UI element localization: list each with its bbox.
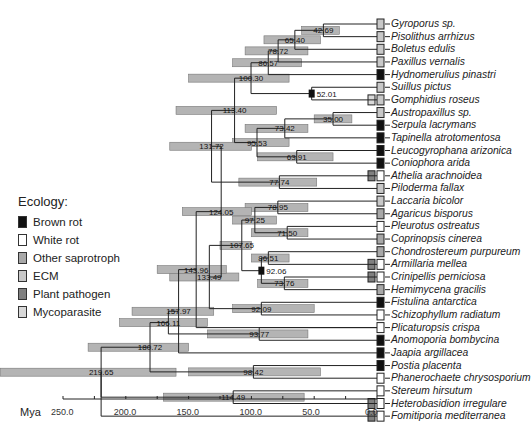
legend-swatch-icon	[18, 234, 27, 246]
axis-tick-label: 200.0	[114, 407, 137, 417]
ecology-marker-icon	[377, 95, 384, 105]
node-age-label: 86.51	[258, 254, 279, 263]
taxon-label: Anomoporia bombycina	[391, 334, 499, 346]
ecology-marker-icon	[377, 411, 384, 421]
taxon-label: Fomitiporia mediterranea	[391, 410, 505, 422]
ecology-marker-icon	[377, 32, 384, 42]
ecology-marker-icon	[377, 146, 384, 156]
taxon-label: Gomphidius roseus	[391, 94, 480, 106]
ecology-marker-icon	[377, 399, 384, 409]
ecology-marker-icon	[377, 133, 384, 143]
node-age-label: 157.97	[166, 307, 191, 316]
legend-item: White rot	[18, 231, 120, 249]
ecology-marker-icon	[377, 171, 384, 181]
taxon-label: Athelia arachnoidea	[391, 170, 482, 182]
ecology-marker-icon	[377, 373, 384, 383]
taxon-label: Schizophyllum radiatum	[391, 309, 500, 321]
ecology-marker-icon	[377, 82, 384, 92]
ecology-marker-icon	[377, 158, 384, 168]
legend-item: Brown rot	[18, 213, 120, 231]
node-age-label: 35.00	[323, 115, 344, 124]
node-age-label: 78.95	[268, 203, 289, 212]
node-age-label: 93.77	[249, 330, 270, 339]
ecology-legend: Ecology: Brown rotWhite rotOther saprotr…	[18, 194, 120, 321]
axis-tick-label: 250.0	[51, 407, 74, 417]
taxon-label: Hemimycena gracilis	[391, 284, 486, 296]
taxon-label: Serpula lacrymans	[391, 119, 476, 131]
node-age-label: 166.11	[156, 319, 180, 328]
ecology-marker-icon	[377, 335, 384, 345]
node-age-label: 143.96	[184, 266, 209, 275]
ecology-marker-icon	[377, 183, 384, 193]
node-age-label: 219.65	[89, 368, 114, 377]
node-age-label: 124.05	[209, 208, 234, 217]
taxon-label: Gyroporus sp.	[391, 18, 456, 30]
taxon-label: Paxillus vernalis	[391, 56, 465, 68]
node-age-label: 73.42	[275, 124, 296, 133]
taxon-label: Crinipellis perniciosa	[391, 271, 485, 283]
taxon-label: Postia placenta	[391, 360, 461, 372]
legend-swatch-icon	[18, 306, 27, 318]
ecology-marker-icon	[377, 120, 384, 130]
node-age-label: 131.72	[199, 142, 224, 151]
ecology-marker-icon	[377, 310, 384, 320]
taxon-label: Austropaxillus sp.	[391, 107, 472, 119]
ecology-marker-icon	[377, 57, 384, 67]
node-age-label: 98.42	[243, 368, 264, 377]
taxon-label: Leucogyrophana arizonica	[391, 145, 512, 157]
axis-unit-label: Mya	[20, 406, 41, 418]
ecology-marker-icon	[377, 272, 384, 282]
ecology-marker-icon	[377, 44, 384, 54]
legend-swatch-icon	[18, 216, 27, 228]
legend-item: Plant pathogen	[18, 285, 120, 303]
taxon-label: Coprinopsis cinerea	[391, 233, 482, 245]
ecology-marker-icon	[377, 259, 384, 269]
taxon-label: Jaapia argillacea	[391, 347, 468, 359]
node-age-label: 97.25	[245, 216, 266, 225]
ecology-marker-icon	[377, 285, 384, 295]
legend-label: Plant pathogen	[33, 288, 110, 300]
node-age-label: 92.06	[266, 267, 287, 276]
calibration-node-icon	[258, 267, 264, 275]
legend-label: Mycoparasite	[33, 306, 101, 318]
legend-item: Other saprotroph	[18, 249, 120, 267]
node-age-label: 78.72	[268, 47, 289, 56]
legend-title: Ecology:	[18, 194, 120, 209]
taxon-label: Pleurotus ostreatus	[391, 220, 480, 232]
ecology-marker-icon	[377, 108, 384, 118]
node-age-label: 113.40	[223, 106, 247, 115]
node-age-label: 95.53	[247, 139, 268, 148]
ecology-marker-icon	[377, 247, 384, 257]
ecology-marker-icon	[377, 348, 384, 358]
legend-label: Brown rot	[33, 216, 82, 228]
node-age-label: 52.01	[317, 90, 338, 99]
legend-label: Other saprotroph	[33, 252, 120, 264]
node-age-label: 86.57	[258, 59, 279, 68]
node-age-label: 63.91	[287, 153, 308, 162]
legend-swatch-icon	[18, 252, 27, 264]
node-age-label: 77.74	[269, 178, 290, 187]
axis-tick-label: 50.0	[302, 407, 320, 417]
taxon-label: Chondrostereum purpureum	[391, 246, 520, 258]
taxon-label: Hydnomerulius pinastri	[391, 69, 496, 81]
taxon-label: Suillus pictus	[391, 81, 451, 93]
ecology-marker-icon	[377, 209, 384, 219]
taxon-label: Coniophora arida	[391, 157, 470, 169]
legend-label: White rot	[33, 234, 79, 246]
node-age-label: 180.72	[138, 343, 163, 352]
axis-tick-label: 0.0	[365, 407, 378, 417]
ecology-marker-icon	[377, 70, 384, 80]
node-age-label: 65.40	[285, 36, 306, 45]
legend-swatch-icon	[18, 288, 27, 300]
taxon-label: Tapinella atrotomentosa	[391, 132, 501, 144]
taxon-label: Fistulina antarctica	[391, 296, 477, 308]
taxon-label: Stereum hirsutum	[391, 385, 472, 397]
legend-item: ECM	[18, 267, 120, 285]
legend-swatch-icon	[18, 270, 27, 282]
ecology-marker-icon	[377, 221, 384, 231]
calibration-node-icon	[309, 90, 315, 98]
ecology-marker-icon	[377, 234, 384, 244]
taxon-label: Phanerochaete chrysosporium	[391, 372, 531, 384]
taxon-label: Agaricus bisporus	[391, 208, 473, 220]
ecology-marker-icon	[377, 19, 384, 29]
